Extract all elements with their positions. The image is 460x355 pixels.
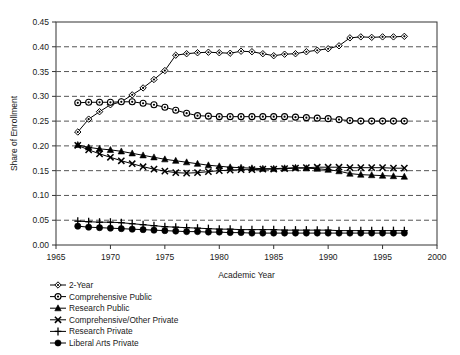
data-point-marker	[88, 101, 90, 103]
x-axis: 19651970197519801985199019952000	[47, 245, 447, 262]
data-point-marker	[251, 116, 253, 118]
data-point-marker	[77, 131, 79, 133]
data-point-marker	[349, 120, 351, 122]
chart-figure: 0.000.050.100.150.200.250.300.350.400.45…	[0, 0, 460, 355]
data-point-marker	[175, 109, 177, 111]
data-point-marker	[284, 116, 286, 118]
legend-item-comprehensive-public[interactable]: Comprehensive Public	[50, 292, 152, 302]
data-point-marker	[381, 36, 383, 38]
data-point-marker	[303, 230, 309, 236]
data-point-marker	[338, 45, 340, 47]
data-point-marker	[96, 225, 102, 231]
data-point-marker	[390, 230, 396, 236]
data-point-marker	[360, 120, 362, 122]
data-point-marker	[57, 296, 59, 298]
data-point-marker	[403, 120, 405, 122]
data-point-marker	[249, 230, 255, 236]
data-point-marker	[164, 69, 166, 71]
data-point-marker	[273, 55, 275, 57]
legend-label: 2-Year	[69, 280, 93, 290]
y-tick-label: 0.25	[32, 116, 49, 126]
data-point-marker	[392, 120, 394, 122]
data-point-marker	[140, 227, 146, 233]
data-point-marker	[207, 115, 209, 117]
y-tick-label: 0.40	[32, 42, 49, 52]
data-point-marker	[118, 226, 124, 232]
data-point-marker	[142, 102, 144, 104]
data-point-marker	[371, 36, 373, 38]
data-point-marker	[316, 49, 318, 51]
data-point-marker	[347, 230, 353, 236]
data-point-marker	[273, 116, 275, 118]
y-axis: 0.000.050.100.150.200.250.300.350.400.45	[32, 17, 56, 250]
data-point-marker	[131, 94, 133, 96]
data-point-marker	[218, 52, 220, 54]
data-point-marker	[75, 223, 81, 229]
data-point-marker	[142, 87, 144, 89]
data-point-marker	[262, 116, 264, 118]
legend-item-liberal-arts-private[interactable]: Liberal Arts Private	[50, 338, 139, 348]
y-tick-label: 0.10	[32, 190, 49, 200]
data-point-marker	[164, 106, 166, 108]
y-tick-label: 0.35	[32, 67, 49, 77]
x-tick-label: 1995	[373, 252, 392, 262]
data-point-marker	[216, 229, 222, 235]
data-point-marker	[360, 36, 362, 38]
y-tick-label: 0.45	[32, 17, 49, 27]
legend-item-research-private[interactable]: Research Private	[50, 326, 133, 336]
legend-item-research-public[interactable]: Research Public	[50, 303, 129, 313]
x-tick-label: 1980	[210, 252, 229, 262]
data-point-marker	[153, 78, 155, 80]
data-point-marker	[305, 51, 307, 53]
data-point-marker	[151, 227, 157, 233]
data-point-marker	[131, 101, 133, 103]
data-point-marker	[251, 51, 253, 53]
legend-item-2-year[interactable]: 2-Year	[50, 280, 93, 290]
data-point-marker	[294, 53, 296, 55]
y-tick-label: 0.20	[32, 141, 49, 151]
legend-label: Research Private	[69, 326, 133, 336]
data-point-marker	[55, 340, 61, 346]
data-point-marker	[240, 116, 242, 118]
data-point-marker	[153, 104, 155, 106]
enrollment-share-line-chart: 0.000.050.100.150.200.250.300.350.400.45…	[0, 0, 460, 355]
data-point-marker	[207, 51, 209, 53]
data-point-marker	[184, 229, 190, 235]
data-point-marker	[107, 225, 113, 231]
data-point-marker	[173, 228, 179, 234]
data-point-marker	[371, 120, 373, 122]
y-tick-label: 0.15	[32, 166, 49, 176]
legend-item-comprehensive-other-private[interactable]: Comprehensive/Other Private	[50, 315, 179, 325]
data-point-marker	[88, 118, 90, 120]
data-point-marker	[271, 230, 277, 236]
data-point-marker	[403, 35, 405, 37]
data-point-marker	[186, 112, 188, 114]
data-point-marker	[120, 101, 122, 103]
data-point-marker	[381, 120, 383, 122]
plot-area	[56, 22, 437, 245]
y-axis-title: Share of Enrollment	[9, 95, 19, 171]
data-point-marker	[205, 229, 211, 235]
data-point-marker	[327, 48, 329, 50]
data-point-marker	[316, 117, 318, 119]
data-point-marker	[262, 53, 264, 55]
data-point-marker	[292, 230, 298, 236]
data-point-marker	[338, 119, 340, 121]
data-point-marker	[392, 36, 394, 38]
data-point-marker	[305, 117, 307, 119]
y-tick-label: 0.05	[32, 215, 49, 225]
legend-label: Comprehensive/Other Private	[69, 315, 179, 325]
legend-label: Liberal Arts Private	[69, 338, 139, 348]
data-point-marker	[86, 224, 92, 230]
data-point-marker	[401, 230, 407, 236]
y-tick-label: 0.00	[32, 240, 49, 250]
data-point-marker	[282, 230, 288, 236]
legend-label: Research Public	[69, 303, 129, 313]
data-point-marker	[327, 118, 329, 120]
data-point-marker	[349, 37, 351, 39]
data-point-marker	[162, 228, 168, 234]
data-point-marker	[129, 226, 135, 232]
data-point-marker	[238, 230, 244, 236]
data-point-marker	[57, 284, 59, 286]
data-point-marker	[77, 102, 79, 104]
